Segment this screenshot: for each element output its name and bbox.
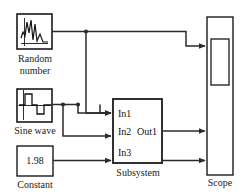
signal-in1-arrow[interactable] <box>100 105 111 114</box>
subsystem-label: Subsystem <box>104 167 172 178</box>
signal-junction-dot <box>76 102 80 106</box>
signal-random-to-scope[interactable] <box>52 32 205 47</box>
signal-random-to-in2[interactable] <box>84 29 111 113</box>
block-scope[interactable] <box>207 17 233 175</box>
signal-sine-to-in1[interactable] <box>52 102 111 113</box>
subsystem-port-out1: Out1 <box>137 126 157 137</box>
sine-wave-label: Sine wave <box>2 125 68 136</box>
subsystem-port-in2: In2 <box>118 126 131 137</box>
constant-value: 1.98 <box>17 155 53 166</box>
random-number-label-line2: number <box>9 65 61 76</box>
scope-label: Scope <box>198 177 242 188</box>
block-random-number[interactable] <box>17 14 52 49</box>
simulink-block-diagram: Random number Sine wave 1.98 Constant In… <box>0 0 248 194</box>
constant-label: Constant <box>2 179 68 190</box>
block-sine-wave[interactable] <box>17 89 52 122</box>
subsystem-port-in3: In3 <box>118 147 131 158</box>
scope-display-icon <box>211 39 229 85</box>
random-number-label-line1: Random <box>9 53 61 64</box>
signal-junction-dot <box>84 29 88 33</box>
signal-junction-dot <box>61 102 65 106</box>
subsystem-port-in1: In1 <box>118 108 131 119</box>
